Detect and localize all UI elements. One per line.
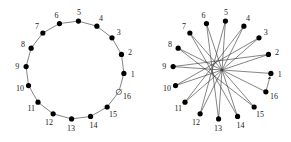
node-label-3: 3: [264, 28, 268, 37]
node-8: [29, 46, 34, 51]
edge-9-10: [26, 67, 28, 86]
node-label-4: 4: [246, 14, 250, 23]
node-9: [24, 64, 29, 69]
node-3: [109, 35, 114, 40]
node-11: [182, 100, 187, 105]
node-10: [26, 83, 31, 88]
edge-2-3: [112, 38, 121, 55]
node-label-4: 4: [99, 14, 103, 23]
node-label-14: 14: [89, 121, 97, 130]
node-label-11: 11: [174, 104, 182, 113]
node-11: [35, 100, 40, 105]
node-12: [198, 111, 203, 116]
node-16: [263, 89, 268, 94]
edge-13-14: [72, 116, 91, 118]
edge-5-6: [59, 21, 78, 23]
node-6: [57, 21, 62, 26]
edge-1-2: [121, 54, 123, 73]
node-label-3: 3: [117, 28, 121, 37]
node-label-7: 7: [35, 22, 39, 31]
node-13: [216, 116, 221, 121]
node-4: [241, 24, 246, 29]
node-label-15: 15: [109, 110, 117, 119]
node-13: [69, 116, 74, 121]
edge-12-13: [53, 114, 71, 119]
edge-11-12: [38, 102, 53, 114]
node-8: [176, 46, 181, 51]
graph-figures: 12345678910111213141516 1234567891011121…: [0, 0, 291, 142]
edge-14-15: [91, 107, 108, 116]
node-label-12: 12: [45, 118, 53, 127]
star-chord-graph-figure: 12345678910111213141516: [162, 8, 282, 133]
node-5: [223, 19, 228, 24]
node-6: [204, 21, 209, 26]
edge-6-7: [43, 24, 60, 33]
node-1: [268, 71, 273, 76]
edge-3-4: [97, 26, 112, 38]
node-label-6: 6: [55, 11, 59, 20]
node-1: [121, 71, 126, 76]
node-label-2: 2: [128, 48, 132, 57]
edge-7-8: [31, 33, 43, 48]
edge-4-5: [78, 21, 96, 26]
node-label-10: 10: [16, 84, 24, 93]
node-label-14: 14: [236, 121, 244, 130]
node-2: [119, 52, 124, 57]
node-label-15: 15: [256, 110, 264, 119]
node-label-13: 13: [67, 124, 75, 133]
node-label-9: 9: [15, 62, 19, 71]
node-label-12: 12: [192, 118, 200, 127]
node-label-8: 8: [168, 40, 172, 49]
node-14: [235, 114, 240, 119]
node-4: [94, 24, 99, 29]
node-label-11: 11: [27, 104, 35, 113]
edge-8-9: [26, 48, 31, 66]
node-label-1: 1: [278, 70, 282, 79]
diagram-canvas: 12345678910111213141516 1234567891011121…: [0, 0, 291, 142]
cycle-graph-figure: 12345678910111213141516: [15, 8, 135, 133]
node-label-13: 13: [214, 124, 222, 133]
node-label-9: 9: [162, 62, 166, 71]
node-14: [88, 114, 93, 119]
edge-12-5: [200, 21, 225, 114]
node-label-16: 16: [123, 92, 131, 101]
node-7: [40, 30, 45, 35]
node-label-8: 8: [21, 40, 25, 49]
node-7: [187, 30, 192, 35]
node-9: [171, 64, 176, 69]
node-label-5: 5: [77, 8, 81, 17]
node-12: [51, 111, 56, 116]
node-label-6: 6: [202, 11, 206, 20]
node-label-1: 1: [131, 70, 135, 79]
node-3: [256, 35, 261, 40]
node-2: [266, 52, 271, 57]
node-5: [76, 19, 81, 24]
node-label-10: 10: [163, 84, 171, 93]
edge-10-11: [29, 86, 38, 103]
node-label-5: 5: [224, 8, 228, 17]
node-10: [173, 83, 178, 88]
node-label-7: 7: [182, 22, 186, 31]
node-label-16: 16: [270, 92, 278, 101]
node-label-2: 2: [275, 48, 279, 57]
